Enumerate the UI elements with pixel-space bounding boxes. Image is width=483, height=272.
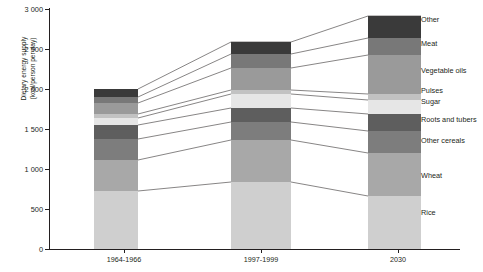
bar-segment-meat[interactable] xyxy=(368,38,421,55)
legend-label-other: Other xyxy=(421,15,439,24)
bar-segment-sugar[interactable] xyxy=(94,118,138,125)
y-tick-label: 1 000 xyxy=(3,165,43,174)
y-tick-label: 2 500 xyxy=(3,45,43,54)
y-tick-label: 2 000 xyxy=(3,85,43,94)
stacked-bar-chart: Dietary energy supply (kcal/person per d… xyxy=(0,0,483,272)
legend-label-vegetable-oils: Vegetable oils xyxy=(421,66,466,75)
y-tick-mark xyxy=(45,129,49,130)
bar-segment-wheat[interactable] xyxy=(94,160,138,191)
bar-segment-rice[interactable] xyxy=(368,196,421,249)
bar-segment-sugar[interactable] xyxy=(368,100,421,114)
legend-label-rice: Rice xyxy=(421,208,436,217)
bar-1997-1999[interactable] xyxy=(231,0,291,272)
bar-segment-other[interactable] xyxy=(231,42,291,54)
legend-label-wheat: Wheat xyxy=(421,171,442,180)
y-tick-label: 1 500 xyxy=(3,125,43,134)
bar-segment-roots-and-tubers[interactable] xyxy=(368,114,421,131)
bar-segment-sugar[interactable] xyxy=(231,94,291,108)
legend-label-meat: Meat xyxy=(421,39,437,48)
legend-label-other-cereals: Other cereals xyxy=(421,136,465,145)
y-tick-mark xyxy=(45,209,49,210)
y-tick-mark xyxy=(45,9,49,10)
bar-1964-1966[interactable] xyxy=(94,0,138,272)
y-tick-mark xyxy=(45,49,49,50)
bar-segment-wheat[interactable] xyxy=(231,140,291,182)
y-tick-mark xyxy=(45,169,49,170)
bar-segment-wheat[interactable] xyxy=(368,153,421,196)
legend-label-roots-and-tubers: Roots and tubers xyxy=(421,115,477,124)
legend-label-pulses: Pulses xyxy=(421,86,443,95)
bar-segment-rice[interactable] xyxy=(94,191,138,249)
bar-segment-other-cereals[interactable] xyxy=(94,139,138,160)
bar-segment-other-cereals[interactable] xyxy=(231,122,291,140)
bar-segment-vegetable-oils[interactable] xyxy=(368,55,421,94)
y-axis-ticks: 3 0002 5002 0001 5001 0005000 xyxy=(0,0,43,272)
bar-2030[interactable] xyxy=(368,0,421,272)
legend-label-sugar: Sugar xyxy=(421,97,440,106)
y-axis-line xyxy=(49,8,50,249)
bar-segment-other[interactable] xyxy=(94,89,138,97)
bar-segment-roots-and-tubers[interactable] xyxy=(94,125,138,139)
bar-segment-vegetable-oils[interactable] xyxy=(231,68,291,90)
bar-segment-other-cereals[interactable] xyxy=(368,131,421,153)
bar-segment-other[interactable] xyxy=(368,16,421,38)
y-tick-mark xyxy=(45,89,49,90)
bar-segment-roots-and-tubers[interactable] xyxy=(231,108,291,122)
y-tick-label: 3 000 xyxy=(3,5,43,14)
y-tick-label: 500 xyxy=(3,205,43,214)
y-tick-mark xyxy=(45,249,49,250)
y-tick-label: 0 xyxy=(3,245,43,254)
bar-segment-meat[interactable] xyxy=(231,54,291,68)
bar-segment-rice[interactable] xyxy=(231,182,291,249)
bar-segment-vegetable-oils[interactable] xyxy=(94,103,138,114)
